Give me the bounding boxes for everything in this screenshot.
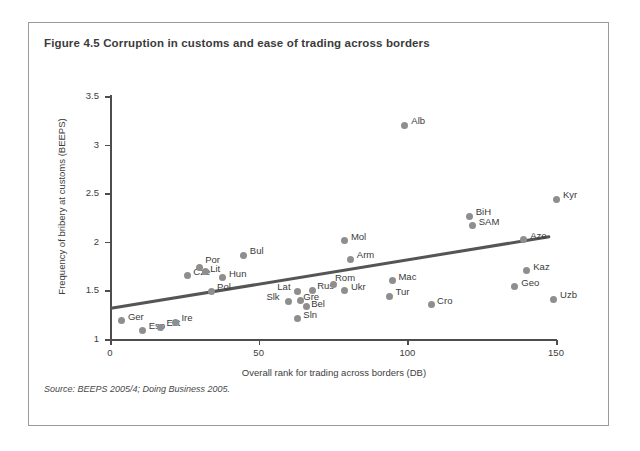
y-tick-label: 3 [59, 139, 99, 150]
data-point-label: Ger [128, 311, 144, 322]
data-point-marker [285, 298, 292, 305]
source-note: Source: BEEPS 2005/4; Doing Business 200… [44, 384, 230, 394]
y-tick-label: 1 [59, 333, 99, 344]
data-point-label: SAM [479, 216, 500, 227]
data-point-marker [118, 317, 125, 324]
data-point-marker [511, 283, 518, 290]
data-point-marker [469, 222, 476, 229]
data-point-label: Slk [266, 291, 279, 302]
data-point-marker [523, 267, 530, 274]
data-point-marker [208, 288, 215, 295]
data-point-label: Pol [217, 281, 231, 292]
y-tick-label: 2 [59, 236, 99, 247]
data-point-label: Sln [303, 309, 317, 320]
x-tick-label: 0 [90, 347, 130, 358]
data-point-marker [341, 287, 348, 294]
y-tick-mark [105, 193, 110, 195]
data-point-marker [466, 213, 473, 220]
data-point-marker [401, 122, 408, 129]
data-point-marker [309, 287, 316, 294]
data-point-label: Cro [437, 295, 452, 306]
data-point-label: Tur [395, 286, 409, 297]
data-point-marker [219, 274, 226, 281]
y-tick-mark [105, 242, 110, 244]
y-tick-label: 1.5 [59, 284, 99, 295]
data-point-label: Ukr [351, 281, 366, 292]
data-point-marker [550, 296, 557, 303]
data-point-marker [386, 293, 393, 300]
data-point-marker [520, 236, 527, 243]
data-point-label: Lit [210, 263, 220, 274]
data-point-marker [157, 324, 164, 331]
y-tick-label: 3.5 [59, 90, 99, 101]
data-point-marker [294, 315, 301, 322]
data-point-marker [184, 272, 191, 279]
x-tick-label: 100 [387, 347, 427, 358]
data-point-label: Ire [181, 312, 192, 323]
data-point-label: Hun [229, 268, 246, 279]
figure-card: Figure 4.5 Corruption in customs and eas… [28, 22, 609, 426]
data-point-label: Bul [250, 245, 264, 256]
data-point-label: Mac [398, 271, 416, 282]
data-point-marker [240, 252, 247, 259]
x-tick-mark [110, 340, 112, 345]
data-point-label: Bel [311, 298, 325, 309]
x-tick-mark [407, 340, 409, 345]
x-tick-mark [556, 340, 558, 345]
x-tick-label: 150 [536, 347, 576, 358]
data-point-marker [347, 256, 354, 263]
x-tick-label: 50 [239, 347, 279, 358]
data-point-label: Uzb [560, 289, 577, 300]
data-point-label: Alb [411, 115, 425, 126]
y-tick-mark [105, 96, 110, 98]
data-point-label: Aze [530, 230, 546, 241]
data-point-label: Kyr [563, 189, 577, 200]
data-point-marker [389, 277, 396, 284]
y-tick-mark [105, 145, 110, 147]
trendline [110, 235, 551, 310]
data-point-label: Geo [521, 277, 539, 288]
x-axis-line [110, 339, 557, 341]
y-tick-label: 2.5 [59, 187, 99, 198]
data-point-marker [294, 288, 301, 295]
data-point-marker [139, 327, 146, 334]
data-point-marker [428, 301, 435, 308]
scatter-plot: Frequency of bribery at customs (BEEPS) … [29, 23, 610, 427]
data-point-label: Kaz [533, 261, 549, 272]
y-tick-mark [105, 290, 110, 292]
data-point-label: Lat [277, 281, 290, 292]
data-point-marker [172, 319, 179, 326]
data-point-label: Mol [351, 231, 366, 242]
data-point-label: Arm [357, 249, 374, 260]
data-point-marker [341, 237, 348, 244]
y-axis-line [110, 95, 112, 340]
data-point-marker [553, 196, 560, 203]
data-point-label: BiH [476, 206, 491, 217]
x-tick-mark [259, 340, 261, 345]
x-axis-label: Overall rank for trading across borders … [154, 367, 514, 378]
